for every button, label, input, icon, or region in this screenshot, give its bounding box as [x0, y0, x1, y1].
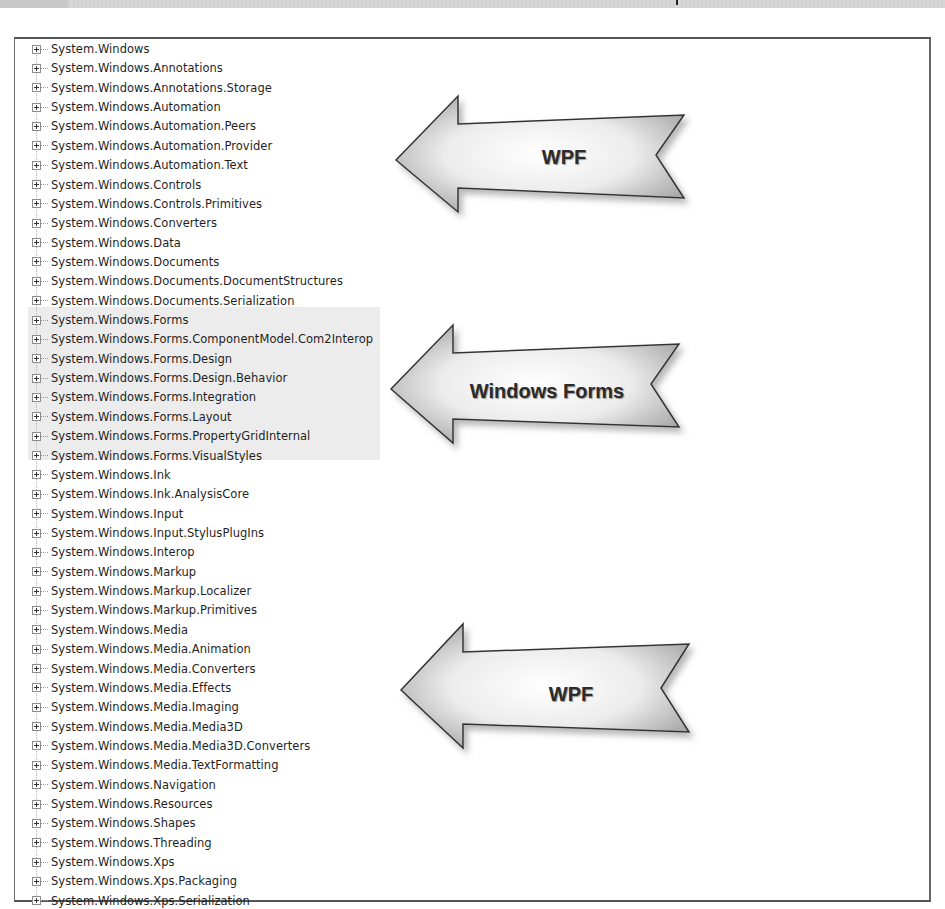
plus-box-expand-icon[interactable] — [32, 451, 41, 460]
plus-box-expand-icon[interactable] — [32, 180, 41, 189]
tree-node-label: System.Windows.Ink.AnalysisCore — [51, 487, 249, 501]
tree-connector — [41, 184, 48, 185]
tree-node[interactable]: System.Windows.Forms.PropertyGridInterna… — [32, 427, 310, 446]
tree-node[interactable]: System.Windows.Media.Media3D.Converters — [32, 736, 310, 755]
plus-box-expand-icon[interactable] — [32, 277, 41, 286]
plus-box-expand-icon[interactable] — [32, 548, 41, 557]
wpf-callout-arrow-top: WPF — [394, 90, 694, 208]
tree-node-label: System.Windows.Automation.Provider — [51, 139, 272, 153]
plus-box-expand-icon[interactable] — [32, 683, 41, 692]
plus-box-expand-icon[interactable] — [32, 896, 41, 905]
tree-node[interactable]: System.Windows.Automation.Peers — [32, 117, 256, 136]
tree-node[interactable]: System.Windows.Annotations.Storage — [32, 78, 272, 97]
plus-box-expand-icon[interactable] — [32, 238, 41, 247]
plus-box-expand-icon[interactable] — [32, 838, 41, 847]
top-window-strip — [0, 0, 945, 8]
plus-box-expand-icon[interactable] — [32, 374, 41, 383]
plus-box-expand-icon[interactable] — [32, 316, 41, 325]
tree-node[interactable]: System.Windows.Controls — [32, 175, 201, 194]
plus-box-expand-icon[interactable] — [32, 45, 41, 54]
tree-node[interactable]: System.Windows.Navigation — [32, 775, 216, 794]
tree-node[interactable]: System.Windows.Media.Animation — [32, 640, 251, 659]
plus-box-expand-icon[interactable] — [32, 645, 41, 654]
tree-node[interactable]: System.Windows.Xps.Serialization — [32, 891, 250, 909]
tree-node-label: System.Windows.Ink — [51, 468, 171, 482]
tree-node[interactable]: System.Windows.Media.Converters — [32, 659, 256, 678]
plus-box-expand-icon[interactable] — [32, 141, 41, 150]
tree-node[interactable]: System.Windows.Ink — [32, 465, 171, 484]
plus-box-expand-icon[interactable] — [32, 103, 41, 112]
plus-box-expand-icon[interactable] — [32, 296, 41, 305]
plus-box-expand-icon[interactable] — [32, 219, 41, 228]
tree-node[interactable]: System.Windows.Input.StylusPlugIns — [32, 524, 264, 543]
tree-node[interactable]: System.Windows.Forms.Layout — [32, 407, 232, 426]
tree-connector — [41, 687, 48, 688]
plus-box-expand-icon[interactable] — [32, 257, 41, 266]
tree-node[interactable]: System.Windows.Automation.Text — [32, 156, 248, 175]
plus-box-expand-icon[interactable] — [32, 412, 41, 421]
tree-node-label: System.Windows.Forms.Design.Behavior — [51, 371, 287, 385]
tree-node[interactable]: System.Windows.Threading — [32, 833, 212, 852]
tree-node[interactable]: System.Windows.Interop — [32, 543, 195, 562]
tree-node[interactable]: System.Windows.Forms — [32, 311, 189, 330]
tree-node[interactable]: System.Windows.Converters — [32, 214, 217, 233]
tree-node[interactable]: System.Windows.Forms.Design — [32, 349, 232, 368]
tree-node[interactable]: System.Windows.Forms.Design.Behavior — [32, 369, 287, 388]
plus-box-expand-icon[interactable] — [32, 703, 41, 712]
tree-node[interactable]: System.Windows.Annotations — [32, 59, 223, 78]
tree-node[interactable]: System.Windows.Media — [32, 620, 188, 639]
tree-node[interactable]: System.Windows.Resources — [32, 795, 212, 814]
plus-box-expand-icon[interactable] — [32, 800, 41, 809]
tree-node[interactable]: System.Windows.Documents.DocumentStructu… — [32, 272, 343, 291]
plus-box-expand-icon[interactable] — [32, 819, 41, 828]
tree-node[interactable]: System.Windows.Automation.Provider — [32, 136, 272, 155]
plus-box-expand-icon[interactable] — [32, 470, 41, 479]
plus-box-expand-icon[interactable] — [32, 780, 41, 789]
tree-node[interactable]: System.Windows.Markup — [32, 562, 196, 581]
tree-node[interactable]: System.Windows.Xps — [32, 853, 175, 872]
tree-node[interactable]: System.Windows.Media.Imaging — [32, 698, 239, 717]
tree-node[interactable]: System.Windows.Media.TextFormatting — [32, 756, 279, 775]
tree-node[interactable]: System.Windows.Media.Media3D — [32, 717, 243, 736]
tree-node[interactable]: System.Windows.Markup.Primitives — [32, 601, 257, 620]
plus-box-expand-icon[interactable] — [32, 122, 41, 131]
tree-node[interactable]: System.Windows.Forms.ComponentModel.Com2… — [32, 330, 373, 349]
plus-box-expand-icon[interactable] — [32, 567, 41, 576]
plus-box-expand-icon[interactable] — [32, 761, 41, 770]
tree-node[interactable]: System.Windows.Forms.Integration — [32, 388, 256, 407]
plus-box-expand-icon[interactable] — [32, 64, 41, 73]
tree-node[interactable]: System.Windows.Data — [32, 233, 181, 252]
plus-box-expand-icon[interactable] — [32, 490, 41, 499]
plus-box-expand-icon[interactable] — [32, 877, 41, 886]
tree-connector — [41, 745, 48, 746]
tree-node[interactable]: System.Windows.Xps.Packaging — [32, 872, 237, 891]
plus-box-expand-icon[interactable] — [32, 509, 41, 518]
plus-box-expand-icon[interactable] — [32, 587, 41, 596]
plus-box-expand-icon[interactable] — [32, 625, 41, 634]
tree-node[interactable]: System.Windows.Forms.VisualStyles — [32, 446, 262, 465]
tree-node[interactable]: System.Windows.Documents — [32, 252, 219, 271]
plus-box-expand-icon[interactable] — [32, 606, 41, 615]
tree-node[interactable]: System.Windows.Shapes — [32, 814, 196, 833]
plus-box-expand-icon[interactable] — [32, 335, 41, 344]
tree-connector — [41, 416, 48, 417]
tree-node[interactable]: System.Windows.Media.Effects — [32, 678, 231, 697]
tree-node[interactable]: System.Windows.Controls.Primitives — [32, 194, 262, 213]
plus-box-expand-icon[interactable] — [32, 529, 41, 538]
plus-box-expand-icon[interactable] — [32, 741, 41, 750]
plus-box-expand-icon[interactable] — [32, 858, 41, 867]
plus-box-expand-icon[interactable] — [32, 664, 41, 673]
tree-node[interactable]: System.Windows — [32, 40, 150, 59]
plus-box-expand-icon[interactable] — [32, 161, 41, 170]
plus-box-expand-icon[interactable] — [32, 722, 41, 731]
tree-node[interactable]: System.Windows.Documents.Serialization — [32, 291, 295, 310]
plus-box-expand-icon[interactable] — [32, 199, 41, 208]
tree-node[interactable]: System.Windows.Ink.AnalysisCore — [32, 485, 249, 504]
tree-node[interactable]: System.Windows.Input — [32, 504, 183, 523]
plus-box-expand-icon[interactable] — [32, 83, 41, 92]
tree-node[interactable]: System.Windows.Markup.Localizer — [32, 582, 251, 601]
plus-box-expand-icon[interactable] — [32, 393, 41, 402]
plus-box-expand-icon[interactable] — [32, 354, 41, 363]
plus-box-expand-icon[interactable] — [32, 432, 41, 441]
tree-node[interactable]: System.Windows.Automation — [32, 98, 221, 117]
